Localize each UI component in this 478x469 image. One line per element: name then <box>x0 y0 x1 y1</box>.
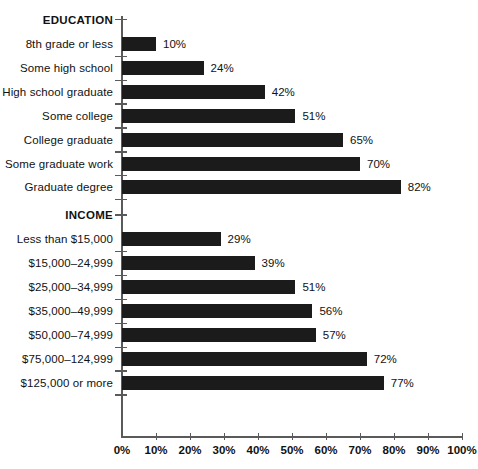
category-tick <box>115 214 127 215</box>
category-tick <box>115 175 127 176</box>
bar-chart: EDUCATION8th grade or less10%Some high s… <box>0 0 478 469</box>
bar <box>122 256 255 270</box>
value-tick-label: 40% <box>246 444 269 456</box>
category-label: High school graduate <box>0 86 113 98</box>
category-label: Some high school <box>0 62 113 74</box>
value-tick <box>224 433 225 440</box>
value-tick-label: 50% <box>280 444 303 456</box>
bar <box>122 157 360 171</box>
value-tick <box>462 433 463 440</box>
group-header-education: EDUCATION <box>0 14 113 26</box>
bar-value-label: 56% <box>319 305 342 317</box>
category-tick <box>115 347 127 348</box>
category-label: Less than $15,000 <box>0 233 113 245</box>
bar <box>122 133 343 147</box>
bar <box>122 328 316 342</box>
bar-value-label: 77% <box>391 377 414 389</box>
value-tick-label: 0% <box>114 444 131 456</box>
value-tick <box>258 433 259 440</box>
value-tick-label: 90% <box>416 444 439 456</box>
bar <box>122 109 295 123</box>
category-label: $15,000–24,999 <box>0 257 113 269</box>
bar <box>122 376 384 390</box>
bar <box>122 304 312 318</box>
value-tick <box>360 433 361 440</box>
bar <box>122 180 401 194</box>
category-label: Some college <box>0 110 113 122</box>
category-label: $125,000 or more <box>0 377 113 389</box>
bar <box>122 352 367 366</box>
category-label: College graduate <box>0 134 113 146</box>
category-tick <box>115 323 127 324</box>
value-tick <box>326 433 327 440</box>
bar-value-label: 72% <box>374 353 397 365</box>
bar-value-label: 65% <box>350 134 373 146</box>
category-tick <box>115 275 127 276</box>
bar-value-label: 51% <box>302 281 325 293</box>
category-tick <box>115 127 127 128</box>
category-tick <box>115 56 127 57</box>
category-label: $35,000–49,999 <box>0 305 113 317</box>
bar-value-label: 82% <box>408 181 431 193</box>
category-tick <box>115 370 127 371</box>
category-label: Some graduate work <box>0 158 113 170</box>
bar-value-label: 42% <box>272 86 295 98</box>
category-label: $50,000–74,999 <box>0 329 113 341</box>
value-tick-label: 10% <box>144 444 167 456</box>
bar-value-label: 39% <box>262 257 285 269</box>
bar <box>122 37 156 51</box>
value-tick <box>394 433 395 440</box>
bar-value-label: 29% <box>228 233 251 245</box>
bar-value-label: 70% <box>367 158 390 170</box>
value-tick-label: 20% <box>178 444 201 456</box>
category-tick <box>115 199 127 200</box>
value-tick-label: 100% <box>447 444 476 456</box>
bar <box>122 232 221 246</box>
category-tick <box>115 251 127 252</box>
bar-value-label: 57% <box>323 329 346 341</box>
bar-value-label: 51% <box>302 110 325 122</box>
bar <box>122 85 265 99</box>
value-tick <box>190 433 191 440</box>
category-tick <box>115 394 127 395</box>
category-tick <box>115 19 127 20</box>
category-tick <box>115 151 127 152</box>
bar <box>122 61 204 75</box>
group-header-income: INCOME <box>0 209 113 221</box>
category-label: Graduate degree <box>0 181 113 193</box>
bar <box>122 280 295 294</box>
value-tick-label: 60% <box>314 444 337 456</box>
category-tick <box>115 103 127 104</box>
value-tick <box>156 433 157 440</box>
value-tick <box>292 433 293 440</box>
category-tick <box>115 299 127 300</box>
value-tick-label: 30% <box>212 444 235 456</box>
value-tick <box>428 433 429 440</box>
bar-value-label: 10% <box>163 38 186 50</box>
value-tick-label: 70% <box>348 444 371 456</box>
bar-value-label: 24% <box>211 62 234 74</box>
category-label: $25,000–34,999 <box>0 281 113 293</box>
value-tick-label: 80% <box>382 444 405 456</box>
category-tick <box>115 80 127 81</box>
category-label: 8th grade or less <box>0 38 113 50</box>
category-label: $75,000–124,999 <box>0 353 113 365</box>
